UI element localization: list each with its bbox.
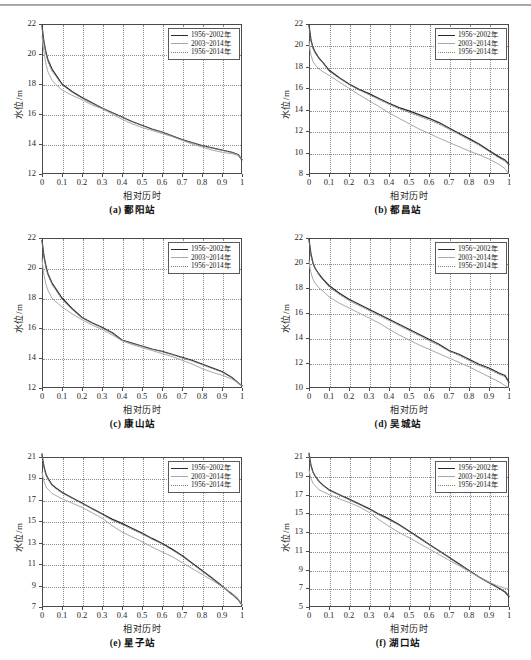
x-tick-label: 0.2 xyxy=(71,611,93,620)
y-tick-mark xyxy=(306,338,309,339)
y-tick-label: 12 xyxy=(287,126,303,135)
x-tick-label: 0.7 xyxy=(438,178,460,187)
y-tick-mark xyxy=(39,358,42,359)
x-tick-label: 0.5 xyxy=(398,611,420,620)
y-tick-label: 11 xyxy=(20,559,36,568)
x-tick-label: 0.5 xyxy=(131,178,153,187)
y-tick-mark xyxy=(306,153,309,154)
y-tick-label: 5 xyxy=(287,602,303,611)
x-tick-label: 0.9 xyxy=(478,611,500,620)
legend-swatch-icon xyxy=(438,485,455,486)
legend-swatch-icon xyxy=(438,266,455,267)
y-tick-mark xyxy=(39,564,42,565)
y-axis-label: 水位/m xyxy=(279,89,292,119)
y-tick-label: 12 xyxy=(20,383,36,392)
chart-panel-e: 00.10.20.30.40.50.60.70.80.9179111315171… xyxy=(0,435,265,660)
x-tick-label: 0.4 xyxy=(111,611,133,620)
x-tick-label: 0 xyxy=(298,611,320,620)
legend-swatch-icon xyxy=(171,476,188,477)
y-tick-mark xyxy=(39,84,42,85)
y-tick-label: 22 xyxy=(20,19,36,28)
x-tick-label: 0.5 xyxy=(131,611,153,620)
legend-swatch-icon xyxy=(438,257,455,258)
x-tick-label: 0.6 xyxy=(151,392,173,401)
y-tick-mark xyxy=(306,238,309,239)
legend-item: 1956~2014年 xyxy=(438,262,503,271)
y-tick-label: 7 xyxy=(20,602,36,611)
x-tick-label: 0.6 xyxy=(418,392,440,401)
x-tick-label: 0.8 xyxy=(191,178,213,187)
x-tick-label: 0 xyxy=(298,392,320,401)
legend-label: 1956~2014年 xyxy=(191,262,231,271)
x-tick-label: 1 xyxy=(231,392,253,401)
y-tick-label: 12 xyxy=(287,358,303,367)
legend-item: 1956~2002年 xyxy=(171,245,236,254)
y-axis-label: 水位/m xyxy=(12,303,25,333)
y-tick-mark xyxy=(39,114,42,115)
y-tick-mark xyxy=(306,45,309,46)
y-tick-mark xyxy=(306,495,309,496)
y-tick-label: 18 xyxy=(287,283,303,292)
y-tick-mark xyxy=(306,131,309,132)
y-tick-label: 10 xyxy=(287,383,303,392)
x-tick-label: 0.3 xyxy=(91,611,113,620)
y-tick-label: 18 xyxy=(20,79,36,88)
legend-label: 2003~2014年 xyxy=(458,254,498,263)
y-tick-label: 8 xyxy=(287,169,303,178)
legend-item: 1956~2002年 xyxy=(438,31,503,40)
legend-item: 1956~2014年 xyxy=(171,48,236,57)
y-tick-label: 22 xyxy=(287,19,303,28)
x-tick-label: 0.2 xyxy=(71,178,93,187)
y-tick-mark xyxy=(306,532,309,533)
y-tick-mark xyxy=(306,457,309,458)
x-axis-label: 相对历时 xyxy=(309,403,509,416)
legend-b: 1956~2002年2003~2014年1956~2014年 xyxy=(435,28,507,60)
x-tick-label: 0.6 xyxy=(151,178,173,187)
x-tick-label: 0 xyxy=(31,392,53,401)
legend-label: 1956~2002年 xyxy=(191,31,231,40)
y-tick-mark xyxy=(39,174,42,175)
x-tick-label: 0.4 xyxy=(378,392,400,401)
y-tick-label: 14 xyxy=(287,333,303,342)
x-tick-label: 0.7 xyxy=(438,392,460,401)
legend-label: 1956~2002年 xyxy=(458,31,498,40)
x-axis-label: 相对历时 xyxy=(42,189,242,202)
x-tick-label: 0 xyxy=(298,178,320,187)
x-tick-label: 0.1 xyxy=(318,392,340,401)
chart-panel-b: 00.10.20.30.40.50.60.70.80.9181012141618… xyxy=(265,8,531,220)
legend-label: 2003~2014年 xyxy=(191,473,231,482)
x-tick-label: 0.2 xyxy=(338,611,360,620)
y-tick-mark xyxy=(39,586,42,587)
legend-swatch-icon xyxy=(438,249,455,250)
figure-panel-grid: 00.10.20.30.40.50.60.70.80.9112141618202… xyxy=(0,8,531,660)
x-tick-label: 0.1 xyxy=(318,178,340,187)
y-tick-mark xyxy=(39,268,42,269)
chart-panel-a: 00.10.20.30.40.50.60.70.80.9112141618202… xyxy=(0,8,265,220)
legend-item: 1956~2014年 xyxy=(171,262,236,271)
x-tick-label: 0.3 xyxy=(358,178,380,187)
y-tick-label: 18 xyxy=(20,293,36,302)
x-tick-label: 0.1 xyxy=(51,392,73,401)
y-tick-mark xyxy=(306,513,309,514)
y-tick-label: 18 xyxy=(287,62,303,71)
y-tick-mark xyxy=(306,607,309,608)
legend-label: 1956~2002年 xyxy=(458,245,498,254)
x-tick-label: 0.3 xyxy=(358,392,380,401)
y-axis-label: 水位/m xyxy=(12,89,25,119)
y-tick-mark xyxy=(39,328,42,329)
y-axis-label: 水位/m xyxy=(279,522,292,552)
legend-item: 1956~2002年 xyxy=(438,464,503,473)
y-tick-mark xyxy=(306,67,309,68)
legend-item: 1956~2002年 xyxy=(171,31,236,40)
legend-swatch-icon xyxy=(171,485,188,486)
x-tick-label: 0.9 xyxy=(211,392,233,401)
legend-label: 2003~2014年 xyxy=(191,40,231,49)
y-tick-mark xyxy=(306,388,309,389)
x-tick-label: 0.9 xyxy=(478,392,500,401)
legend-swatch-icon xyxy=(171,468,188,469)
x-tick-label: 0.1 xyxy=(51,611,73,620)
y-tick-mark xyxy=(39,607,42,608)
x-tick-label: 0.4 xyxy=(111,178,133,187)
y-tick-mark xyxy=(306,363,309,364)
x-tick-label: 0.8 xyxy=(191,611,213,620)
